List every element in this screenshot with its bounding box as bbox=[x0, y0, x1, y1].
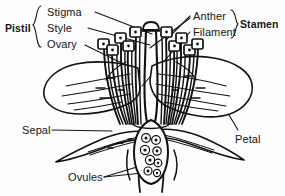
stigma bbox=[143, 22, 159, 30]
label-stigma: Stigma bbox=[47, 6, 82, 18]
label-stamen: Stamen bbox=[240, 18, 279, 30]
label-ovules: Ovules bbox=[68, 171, 103, 183]
label-sepal: Sepal bbox=[22, 124, 51, 136]
flower-anatomy-figure: Pistil Stigma Style Ovary Anther Filamen… bbox=[0, 0, 285, 196]
label-anther: Anther bbox=[193, 10, 226, 22]
label-style: Style bbox=[47, 22, 72, 34]
label-ovary: Ovary bbox=[47, 38, 77, 50]
label-pistil: Pistil bbox=[5, 22, 31, 34]
label-filament: Filament bbox=[193, 26, 236, 38]
label-petal: Petal bbox=[235, 133, 261, 145]
